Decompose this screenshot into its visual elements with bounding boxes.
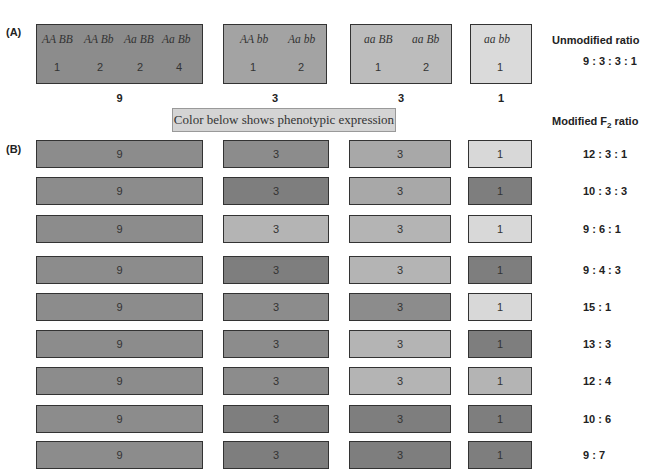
phenotype-bar: 1 — [468, 256, 532, 284]
phenotype-bar: 1 — [468, 441, 532, 469]
modified-ratio: 13 : 3 — [583, 338, 611, 350]
phenotype-bar: 3 — [223, 140, 329, 168]
phenotype-bar: 9 — [36, 140, 203, 168]
phenotype-bar: 3 — [349, 256, 451, 284]
genotype-count: 2 — [97, 61, 103, 73]
phenotype-bar: 3 — [349, 140, 451, 168]
modified-ratio: 9 : 7 — [583, 449, 605, 461]
genotype-count: 4 — [176, 61, 182, 73]
phenotype-bar: 9 — [36, 256, 203, 284]
phenotype-bar: 1 — [468, 405, 532, 433]
modified-ratio: 10 : 3 : 3 — [583, 185, 627, 197]
phenotype-bar: 3 — [349, 293, 451, 321]
phenotype-caption: Color below shows phenotypic expression — [172, 108, 396, 132]
phenotype-bar: 1 — [468, 293, 532, 321]
group-total: 3 — [398, 92, 404, 104]
panel-a-label: (A) — [6, 26, 21, 38]
phenotype-bar: 3 — [349, 215, 451, 243]
genotype-label: aa Bb — [412, 33, 439, 45]
genotype-count: 1 — [54, 61, 60, 73]
phenotype-bar: 3 — [223, 330, 329, 358]
phenotype-bar: 9 — [36, 405, 203, 433]
phenotype-bar: 3 — [223, 177, 329, 205]
group-total: 1 — [498, 92, 504, 104]
modified-ratio: 10 : 6 — [583, 413, 611, 425]
phenotype-bar: 3 — [349, 367, 451, 395]
genotype-count: 2 — [298, 61, 304, 73]
modified-heading-suffix: ratio — [611, 115, 638, 127]
phenotype-bar: 3 — [223, 441, 329, 469]
modified-ratio: 12 : 3 : 1 — [583, 148, 627, 160]
unmodified-heading: Unmodified ratio — [552, 34, 639, 46]
group-total: 3 — [272, 92, 278, 104]
phenotype-bar: 3 — [223, 215, 329, 243]
phenotype-bar: 1 — [468, 140, 532, 168]
modified-ratio: 12 : 4 — [583, 375, 611, 387]
phenotype-bar: 9 — [36, 330, 203, 358]
phenotype-bar: 3 — [223, 367, 329, 395]
genotype-count: 2 — [137, 61, 143, 73]
genotype-count: 1 — [497, 61, 503, 73]
modified-ratio: 9 : 6 : 1 — [583, 223, 621, 235]
phenotype-bar: 1 — [468, 215, 532, 243]
phenotype-bar: 3 — [349, 405, 451, 433]
genotype-label: AA bb — [240, 33, 268, 45]
phenotype-bar: 1 — [468, 177, 532, 205]
group-total: 9 — [117, 92, 123, 104]
phenotype-bar: 3 — [349, 177, 451, 205]
phenotype-bar: 3 — [223, 293, 329, 321]
phenotype-bar: 3 — [349, 330, 451, 358]
phenotype-bar: 9 — [36, 177, 203, 205]
genotype-count: 1 — [375, 61, 381, 73]
modified-heading-text: Modified F — [552, 115, 607, 127]
phenotype-bar: 3 — [223, 256, 329, 284]
genotype-count: 2 — [423, 61, 429, 73]
phenotype-bar: 9 — [36, 293, 203, 321]
genotype-label: Aa Bb — [162, 33, 190, 45]
phenotype-bar: 9 — [36, 215, 203, 243]
genotype-label: Aa bb — [288, 33, 315, 45]
genotype-label: AA BB — [42, 33, 73, 45]
phenotype-bar: 1 — [468, 367, 532, 395]
phenotype-bar: 3 — [349, 441, 451, 469]
modified-heading: Modified F2 ratio — [552, 115, 638, 130]
genotype-label: AA Bb — [84, 33, 114, 45]
genotype-label: aa BB — [364, 33, 392, 45]
phenotype-bar: 9 — [36, 441, 203, 469]
modified-ratio: 15 : 1 — [583, 301, 611, 313]
genotype-count: 1 — [250, 61, 256, 73]
genotype-label: aa bb — [484, 33, 510, 45]
modified-ratio: 9 : 4 : 3 — [583, 264, 621, 276]
panel-b-label: (B) — [6, 143, 21, 155]
genotype-label: Aa BB — [124, 33, 154, 45]
phenotype-bar: 1 — [468, 330, 532, 358]
phenotype-bar: 9 — [36, 367, 203, 395]
unmodified-ratio: 9 : 3 : 3 : 1 — [583, 55, 637, 67]
phenotype-bar: 3 — [223, 405, 329, 433]
